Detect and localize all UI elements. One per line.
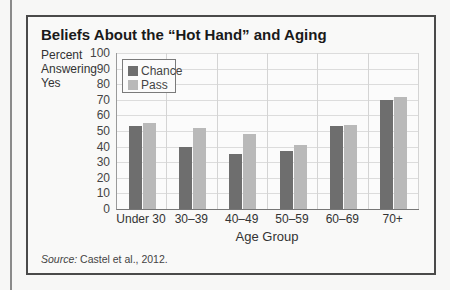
legend-item-pass: Pass bbox=[128, 78, 168, 92]
legend-label: Chance bbox=[141, 64, 182, 78]
y-tick-label: 90 bbox=[80, 62, 110, 76]
gridline-horizontal bbox=[117, 193, 419, 194]
y-tick-label: 30 bbox=[80, 155, 110, 169]
legend-swatch-pass bbox=[128, 80, 138, 90]
bar-pass bbox=[394, 97, 407, 209]
bar-pass bbox=[243, 134, 256, 209]
y-tick-label: 0 bbox=[80, 202, 110, 216]
legend-label: Pass bbox=[141, 78, 168, 92]
gridline-vertical bbox=[368, 53, 369, 209]
bar-pass bbox=[294, 145, 307, 209]
x-tick-label: 40–49 bbox=[217, 212, 267, 226]
gridline-horizontal bbox=[117, 147, 419, 148]
bar-pass bbox=[344, 125, 357, 209]
bar-chance bbox=[179, 147, 192, 209]
legend-item-chance: Chance bbox=[128, 64, 182, 78]
y-tick-label: 80 bbox=[80, 77, 110, 91]
gridline-vertical bbox=[418, 53, 419, 209]
gridline-vertical bbox=[267, 53, 268, 209]
y-tick-label: 50 bbox=[80, 124, 110, 138]
y-tick-label: 60 bbox=[80, 108, 110, 122]
page-margin-rule bbox=[10, 0, 12, 290]
gridline-horizontal bbox=[117, 53, 419, 54]
gridline-horizontal bbox=[117, 115, 419, 116]
gridline-horizontal bbox=[117, 178, 419, 179]
y-tick-label: 20 bbox=[80, 171, 110, 185]
bar-chance bbox=[330, 126, 343, 209]
gridline-horizontal bbox=[117, 162, 419, 163]
bar-chance bbox=[380, 100, 393, 209]
bar-chance bbox=[129, 126, 142, 209]
x-tick-label: 60–69 bbox=[317, 212, 367, 226]
gridline-vertical bbox=[217, 53, 218, 209]
y-tick-label: 100 bbox=[80, 46, 110, 60]
chart-title: Beliefs About the “Hot Hand” and Aging bbox=[41, 26, 327, 43]
source-note: Source: Castel et al., 2012. bbox=[41, 253, 168, 265]
x-tick-label: Under 30 bbox=[116, 212, 166, 226]
x-tick-label: 50–59 bbox=[267, 212, 317, 226]
legend-swatch-chance bbox=[128, 66, 138, 76]
bar-pass bbox=[143, 123, 156, 209]
source-text: Castel et al., 2012. bbox=[77, 253, 167, 265]
y-tick-label: 70 bbox=[80, 93, 110, 107]
x-axis-label: Age Group bbox=[116, 229, 418, 244]
bar-pass bbox=[193, 128, 206, 209]
y-tick-label: 10 bbox=[80, 186, 110, 200]
legend: Chance Pass bbox=[122, 59, 176, 93]
y-tick-label: 40 bbox=[80, 140, 110, 154]
bar-chance bbox=[229, 154, 242, 209]
x-tick-label: 70+ bbox=[368, 212, 418, 226]
source-prefix: Source: bbox=[41, 253, 77, 265]
gridline-vertical bbox=[317, 53, 318, 209]
gridline-horizontal bbox=[117, 100, 419, 101]
bar-chance bbox=[280, 151, 293, 209]
x-tick-label: 30–39 bbox=[166, 212, 216, 226]
gridline-horizontal bbox=[117, 131, 419, 132]
